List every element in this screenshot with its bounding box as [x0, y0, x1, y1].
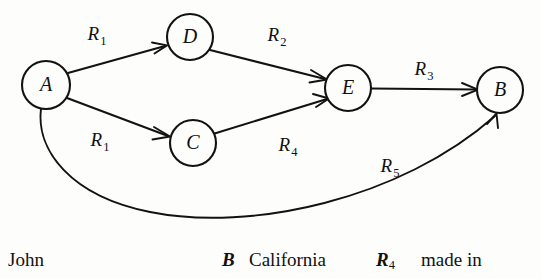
- caption-entity-b: B: [222, 250, 235, 269]
- node-d-label: D: [182, 25, 198, 47]
- caption-california: California: [249, 250, 326, 269]
- node-e[interactable]: E: [325, 65, 371, 111]
- edge-label-a-to-b: R5: [380, 155, 400, 180]
- caption-row: John B California R4 made in: [0, 240, 541, 279]
- node-b-label: B: [494, 78, 506, 100]
- relation-graph: A D C E B R1 R2 R1 R4: [0, 0, 541, 279]
- node-c[interactable]: C: [170, 120, 216, 166]
- caption-relation-r4-subscript: 4: [389, 258, 395, 272]
- edge-label-a-to-c-text: R1: [90, 129, 110, 154]
- node-e-label: E: [341, 76, 354, 98]
- edge-a-to-c-line: [67, 98, 168, 136]
- node-d[interactable]: D: [167, 14, 213, 60]
- edge-d-to-e-line: [210, 50, 325, 79]
- edge-label-a-to-c: R1: [90, 129, 110, 154]
- edge-a-to-d-line: [68, 46, 165, 73]
- edge-a-to-c: [67, 98, 170, 140]
- diagram-canvas: A D C E B R1 R2 R1 R4: [0, 0, 541, 279]
- edge-label-a-to-b-text: R5: [380, 155, 400, 180]
- node-a[interactable]: A: [22, 61, 70, 109]
- edge-label-c-to-e-text: R4: [278, 134, 299, 159]
- edge-label-e-to-b: R3: [414, 58, 434, 83]
- edge-e-to-b-line: [371, 89, 476, 90]
- node-a-label: A: [38, 73, 53, 95]
- edge-label-c-to-e: R4: [278, 134, 299, 159]
- node-c-label: C: [186, 131, 200, 153]
- edge-label-d-to-e-text: R2: [267, 24, 287, 49]
- caption-relation-r4: R4: [376, 250, 395, 272]
- edge-a-to-b-curve: [41, 109, 495, 218]
- edge-c-to-e: [213, 94, 329, 134]
- edge-label-a-to-d-text: R1: [87, 23, 107, 48]
- caption-made-in: made in: [421, 250, 482, 269]
- edge-label-d-to-e: R2: [267, 24, 287, 49]
- caption-relation-r4-base: R: [376, 249, 389, 270]
- edge-e-to-b: [371, 83, 478, 96]
- node-b[interactable]: B: [477, 67, 523, 113]
- edge-a-to-b: [41, 109, 498, 218]
- edge-d-to-e: [210, 50, 327, 83]
- edge-a-to-d: [68, 43, 167, 74]
- edge-label-a-to-d: R1: [87, 23, 107, 48]
- edge-label-e-to-b-text: R3: [414, 58, 434, 83]
- caption-john: John: [8, 250, 44, 269]
- edge-c-to-e-line: [213, 99, 327, 134]
